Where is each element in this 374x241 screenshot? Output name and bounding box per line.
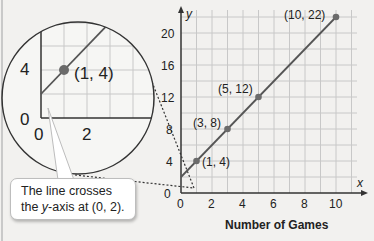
inset-origin-x: 0 xyxy=(34,125,43,145)
inset-y-tick-4: 4 xyxy=(20,60,29,80)
x-axis-title: Number of Games xyxy=(225,218,328,232)
x-tick-2: 2 xyxy=(208,197,215,211)
inset-origin-y: 0 xyxy=(20,110,29,130)
y-tick-20: 20 xyxy=(161,27,174,41)
x-tick-0: 0 xyxy=(177,197,184,211)
label-point-10-22: (10, 22) xyxy=(284,8,325,22)
inset-x-tick-2: 2 xyxy=(82,125,91,145)
inset-point-label: (1, 4) xyxy=(74,64,114,84)
y-tick-16: 16 xyxy=(161,59,174,73)
y-tick-12: 12 xyxy=(161,91,174,105)
y-tick-8: 8 xyxy=(166,123,173,137)
x-tick-8: 8 xyxy=(301,197,308,211)
annotation-callout: The line crosses the y-axis at (0, 2). xyxy=(10,178,136,220)
x-axis-arrow-icon xyxy=(361,190,368,196)
callout-line-1: The line crosses xyxy=(21,183,135,199)
x-tick-10: 10 xyxy=(329,197,342,211)
y-tick-4: 4 xyxy=(166,155,173,169)
label-point-3-8: (3, 8) xyxy=(193,116,221,130)
point-1-4 xyxy=(193,158,200,165)
label-point-1-4: (1, 4) xyxy=(202,155,230,169)
point-5-12 xyxy=(255,94,262,101)
y-axis-letter: y xyxy=(186,7,192,21)
y-tick-0: 0 xyxy=(164,187,171,201)
point-3-8 xyxy=(224,126,231,133)
point-10-22 xyxy=(333,14,340,21)
x-tick-4: 4 xyxy=(239,197,246,211)
x-tick-6: 6 xyxy=(270,197,277,211)
x-axis-letter: x xyxy=(357,176,363,190)
callout-line-2: the y-axis at (0, 2). xyxy=(21,199,135,215)
inset-magnifier xyxy=(2,10,160,174)
y-axis-arrow-icon xyxy=(178,6,184,13)
label-point-5-12: (5, 12) xyxy=(218,82,253,96)
